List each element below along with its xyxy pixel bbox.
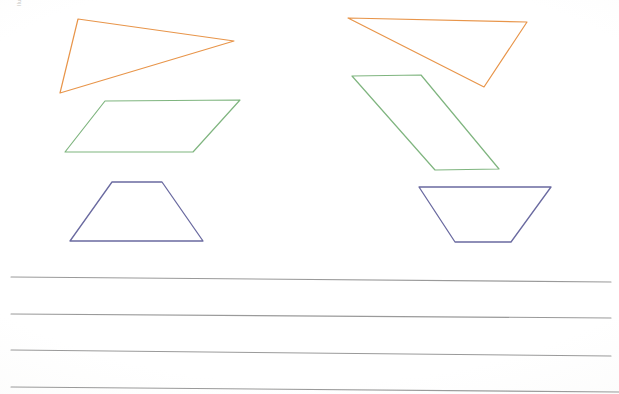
rule-line-3: [11, 350, 611, 356]
rule-line-1: [11, 277, 611, 282]
rule-line-4: [11, 387, 619, 392]
margin-credit-label: Ilustrações Alei DAE: [16, 0, 22, 6]
ruled-writing-lines-layer: [0, 0, 619, 394]
worksheet-page: Ilustrações Alei DAE: [0, 0, 619, 394]
rule-line-2: [11, 314, 611, 318]
